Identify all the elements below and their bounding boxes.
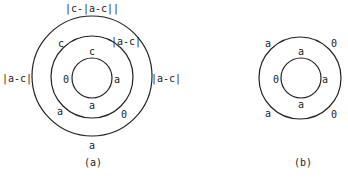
figure-a-middle-bottom-right-label: 0 [121, 109, 127, 120]
figure-a-middle-top-left-label: c [58, 38, 64, 49]
figure-a: |c-|a-c|| |a-c| |a-c| a c |a-c| a 0 c 0 … [2, 3, 181, 168]
figure-b-inner-right-label: a [322, 74, 328, 85]
figure-b-outer-top-right-label: 0 [331, 38, 337, 49]
figure-a-outer-bottom-label: a [89, 140, 95, 151]
figure-b: a 0 a 0 a 0 a a (b) [259, 37, 341, 168]
figure-a-caption: (a) [84, 157, 102, 168]
figure-a-inner-right-label: a [114, 74, 120, 85]
figure-b-outer-top-left-label: a [265, 38, 271, 49]
figure-a-inner-top-label: c [89, 46, 95, 57]
diagram-canvas: |c-|a-c|| |a-c| |a-c| a c |a-c| a 0 c 0 … [0, 0, 348, 180]
figure-b-inner-bottom-label: a [298, 99, 304, 110]
figure-a-middle-top-right-label: |a-c| [111, 36, 141, 48]
figure-b-caption: (b) [294, 157, 312, 168]
figure-b-outer-bottom-left-label: a [265, 108, 271, 119]
figure-a-outer-right-label: |a-c| [151, 73, 181, 85]
figure-a-middle-bottom-left-label: a [57, 106, 63, 117]
figure-b-outer-bottom-right-label: 0 [331, 109, 337, 120]
figure-b-inner-circle [281, 58, 321, 98]
figure-b-inner-left-label: 0 [273, 74, 279, 85]
figure-a-inner-left-label: 0 [63, 74, 69, 85]
figure-a-inner-bottom-label: a [89, 100, 95, 111]
figure-a-inner-circle [72, 58, 112, 98]
figure-b-inner-top-label: a [298, 46, 304, 57]
figure-a-outer-left-label: |a-c| [2, 73, 32, 85]
figure-a-outer-top-label: |c-|a-c|| [65, 3, 119, 15]
